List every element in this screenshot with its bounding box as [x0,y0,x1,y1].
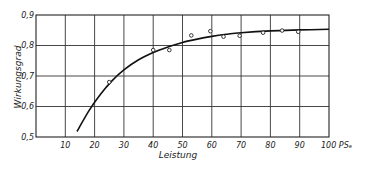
y-tick-label: 0,7 [21,72,35,81]
x-tick-label: 20 [90,141,100,150]
data-point-marker [222,35,226,39]
data-point-marker [107,80,111,84]
y-tick-label: 0,6 [21,102,34,111]
grid-lines [36,15,329,137]
y-axis-ticks: 0,50,60,70,80,9 [21,11,35,142]
x-tick-label: 10 [60,141,70,150]
data-point-marker [189,34,193,38]
x-tick-label: 100 PSₑ [321,141,352,150]
x-tick-label: 90 [295,141,305,150]
efficiency-chart: 0,50,60,70,80,9 102030405060708090100 PS… [0,0,366,169]
y-tick-label: 0,8 [21,41,34,50]
data-point-marker [168,48,172,52]
x-axis-ticks: 102030405060708090100 PSₑ [60,141,352,150]
data-point-marker [261,31,265,35]
data-point-marker [238,34,242,38]
data-point-marker [151,48,155,52]
x-tick-label: 40 [148,141,158,150]
data-point-marker [296,30,300,34]
y-tick-label: 0,5 [21,133,34,142]
x-tick-label: 50 [177,141,187,150]
x-tick-label: 70 [236,141,246,150]
x-tick-label: 30 [119,141,129,150]
y-tick-label: 0,9 [21,11,34,20]
data-point-marker [280,29,284,33]
data-point-marker [209,29,213,33]
y-axis-title: Wirkungsgrad [13,45,23,108]
x-tick-label: 80 [265,141,275,150]
x-axis-title: Leistung [159,150,198,160]
x-tick-label: 60 [207,141,217,150]
fit-curve [77,29,329,131]
